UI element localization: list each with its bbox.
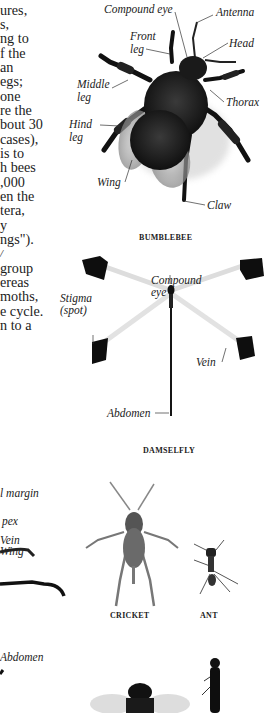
label-compound-eye: Compound eye bbox=[151, 274, 201, 298]
caption-ant: ANT bbox=[200, 611, 218, 620]
body-text-line: ngs"). bbox=[0, 232, 34, 246]
damselfly-illustration-icon bbox=[0, 250, 266, 450]
fly-figure bbox=[90, 670, 190, 713]
label-compound-eye: Compound eye bbox=[104, 3, 173, 15]
label-vein: Vein bbox=[196, 356, 216, 368]
label-margin: l margin bbox=[0, 487, 39, 499]
caption-damselfly: DAMSELFLY bbox=[143, 446, 195, 455]
damselfly-figure: Compound eye Stigma (spot) Vein Abdomen … bbox=[0, 250, 266, 450]
bumblebee-figure: Compound eye Antenna Front leg Head Midd… bbox=[0, 0, 266, 230]
label-head: Head bbox=[229, 37, 254, 49]
label-hind-leg: Hind leg bbox=[69, 118, 92, 144]
label-thorax: Thorax bbox=[226, 96, 259, 108]
label-abdomen-fragment: Abdomen bbox=[0, 651, 43, 663]
label-stigma: Stigma (spot) bbox=[60, 292, 92, 316]
ant-figure: ANT bbox=[190, 540, 266, 620]
label-abdomen: Abdomen bbox=[107, 407, 150, 419]
label-wing: Wing bbox=[0, 545, 24, 557]
fly-illustration-icon bbox=[90, 670, 190, 713]
earwig-figure bbox=[200, 655, 230, 713]
label-claw: Claw bbox=[207, 199, 231, 211]
label-apex: pex bbox=[2, 515, 18, 527]
label-wing: Wing bbox=[97, 176, 121, 188]
caption-bumblebee: BUMBLEBEE bbox=[139, 233, 192, 242]
earwig-illustration-icon bbox=[200, 655, 230, 713]
left-fragment-figure: l margin pex Vein Wing Abdomen bbox=[0, 460, 90, 713]
ant-illustration-icon bbox=[190, 540, 266, 620]
caption-cricket: CRICKET bbox=[110, 611, 149, 620]
label-front-leg: Front leg bbox=[130, 30, 156, 56]
cricket-illustration-icon bbox=[80, 480, 190, 620]
label-middle-leg: Middle leg bbox=[77, 78, 110, 104]
label-antenna: Antenna bbox=[216, 6, 254, 18]
cricket-figure: CRICKET bbox=[80, 480, 190, 620]
